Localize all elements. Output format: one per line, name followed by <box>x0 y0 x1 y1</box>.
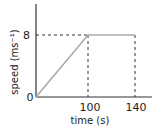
x-axis-label: time (s) <box>71 115 110 126</box>
speed-time-chart: 8 0 100 140 time (s) speed (ms⁻¹) <box>0 0 158 133</box>
y-tick-8: 8 <box>23 29 30 42</box>
x-tick-140: 140 <box>126 101 147 114</box>
origin-label: 0 <box>27 91 34 104</box>
speed-series-line <box>36 35 135 97</box>
x-tick-100: 100 <box>80 101 101 114</box>
y-axis-label: speed (ms⁻¹) <box>9 29 20 95</box>
